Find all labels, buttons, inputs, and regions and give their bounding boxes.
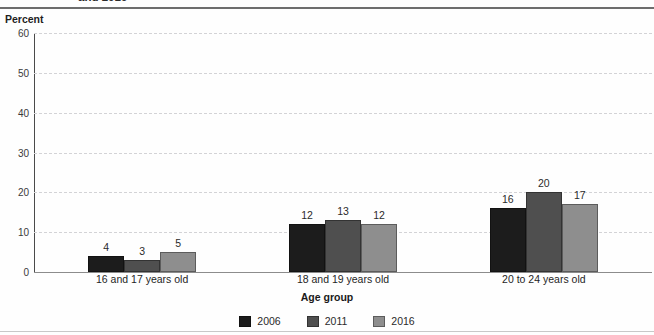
y-axis-tick: 60 <box>18 28 29 39</box>
bar-2016-0[interactable]: 5 <box>160 33 196 272</box>
legend-label: 2016 <box>391 315 414 327</box>
bar-rect[interactable] <box>490 208 526 272</box>
category-label: 20 to 24 years old <box>444 273 644 285</box>
chart-legend: 200620112016 <box>0 315 654 327</box>
y-axis-label: Percent <box>5 13 44 25</box>
legend-title: Age group <box>0 291 654 303</box>
legend-label: 2011 <box>325 315 348 327</box>
bar-group: 121312 <box>289 33 397 272</box>
legend-item-2016[interactable]: 2016 <box>373 315 414 327</box>
legend-item-2011[interactable]: 2011 <box>307 315 348 327</box>
category-label: 16 and 17 years old <box>42 273 242 285</box>
y-axis-tick: 0 <box>23 267 29 278</box>
bar-rect[interactable] <box>562 204 598 272</box>
bar-value-label: 12 <box>373 209 385 221</box>
bar-2006-1[interactable]: 12 <box>289 33 325 272</box>
bar-2011-2[interactable]: 20 <box>526 33 562 272</box>
bar-rect[interactable] <box>88 256 124 272</box>
legend-item-2006[interactable]: 2006 <box>239 315 280 327</box>
bar-rect[interactable] <box>325 220 361 272</box>
bottom-divider <box>0 331 654 332</box>
category-label: 18 and 19 years old <box>243 273 443 285</box>
legend-swatch-icon <box>307 316 319 327</box>
bar-rect[interactable] <box>361 224 397 272</box>
bar-rect[interactable] <box>526 192 562 272</box>
y-axis-tick: 40 <box>18 107 29 118</box>
bar-2011-1[interactable]: 13 <box>325 33 361 272</box>
bar-value-label: 17 <box>574 189 586 201</box>
chart-title: and 2016 <box>78 0 127 3</box>
y-axis-tick: 20 <box>18 187 29 198</box>
bar-2006-2[interactable]: 16 <box>490 33 526 272</box>
bar-2016-1[interactable]: 12 <box>361 33 397 272</box>
bar-value-label: 20 <box>538 177 550 189</box>
bar-value-label: 5 <box>175 237 181 249</box>
bar-2006-0[interactable]: 4 <box>88 33 124 272</box>
bar-2016-2[interactable]: 17 <box>562 33 598 272</box>
title-divider <box>0 7 654 9</box>
bar-rect[interactable] <box>124 260 160 272</box>
bar-group: 435 <box>88 33 196 272</box>
y-axis-tick: 50 <box>18 67 29 78</box>
legend-label: 2006 <box>257 315 280 327</box>
plot-area: 0102030405060435121312162017 <box>34 33 652 272</box>
chart-canvas: and 2016 Percent 01020304050604351213121… <box>0 0 654 335</box>
bar-value-label: 4 <box>103 241 109 253</box>
bar-value-label: 12 <box>301 209 313 221</box>
bar-2011-0[interactable]: 3 <box>124 33 160 272</box>
legend-swatch-icon <box>239 316 251 327</box>
legend-swatch-icon <box>373 316 385 327</box>
bar-rect[interactable] <box>160 252 196 272</box>
bar-value-label: 13 <box>337 205 349 217</box>
y-axis-tick: 30 <box>18 147 29 158</box>
bar-value-label: 16 <box>502 193 514 205</box>
bar-rect[interactable] <box>289 224 325 272</box>
bar-group: 162017 <box>490 33 598 272</box>
y-axis-tick: 10 <box>18 227 29 238</box>
bar-value-label: 3 <box>139 245 145 257</box>
